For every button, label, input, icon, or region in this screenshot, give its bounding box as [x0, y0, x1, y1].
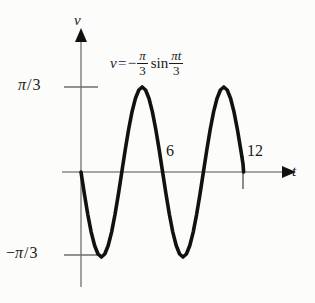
amplitude-numerator: π [137, 49, 148, 64]
minus-sign: − [128, 55, 136, 71]
sine-wave-plot [0, 0, 315, 303]
argument-numerator: πt [169, 49, 183, 64]
v-axis-arrowhead [75, 28, 87, 42]
y-tick-label-neg-pi-over-3: −π/3 [6, 244, 38, 262]
minus-glyph: − [6, 244, 15, 261]
figure-container: v t π/3 −π/3 6 12 v = −π3sinπt3 [0, 0, 315, 303]
pi-glyph: π [18, 76, 26, 93]
amplitude-fraction: π3 [137, 49, 148, 77]
argument-denominator: 3 [169, 64, 183, 78]
equation-lhs: v [110, 55, 117, 71]
denominator-glyph: 3 [32, 76, 40, 93]
sin-function-name: sin [151, 55, 169, 71]
amplitude-denominator: 3 [137, 64, 148, 78]
equals-sign: = [118, 55, 126, 71]
t-axis-label: t [292, 163, 296, 180]
denominator-glyph: 3 [30, 244, 38, 261]
pi-glyph: π [15, 244, 23, 261]
x-tick-label-12: 12 [247, 142, 263, 160]
equation-annotation: v = −π3sinπt3 [110, 50, 184, 78]
argument-fraction: πt3 [169, 49, 183, 77]
x-tick-label-6: 6 [166, 142, 174, 160]
y-tick-label-pi-over-3: π/3 [18, 76, 40, 94]
v-axis-label: v [74, 12, 81, 29]
